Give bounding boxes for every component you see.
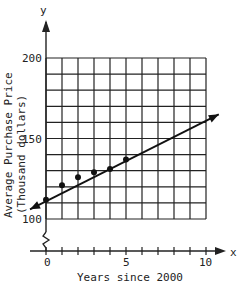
data-point <box>59 182 65 188</box>
y-axis-units: (Thousand dollars) <box>15 95 28 214</box>
data-point <box>91 169 97 175</box>
x-axis-label: Years since 2000 <box>77 271 183 284</box>
data-point <box>123 156 129 162</box>
x-tick-10: 10 <box>199 256 212 269</box>
x-tick-5: 5 <box>123 256 130 269</box>
grid <box>46 58 206 219</box>
y-axis-label: Average Purchase Price <box>2 72 15 218</box>
y-axis-letter: y <box>40 4 47 17</box>
data-point <box>107 166 113 172</box>
data-point <box>43 197 49 203</box>
scatter-chart: y x 200 150 100 0 5 10 Years since 2000 … <box>0 0 238 284</box>
x-tick-0: 0 <box>44 256 51 269</box>
y-tick-200: 200 <box>22 52 42 65</box>
x-axis-letter: x <box>230 246 237 259</box>
axes <box>30 20 226 255</box>
data-point <box>75 174 81 180</box>
